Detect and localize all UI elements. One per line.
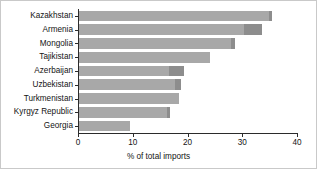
bar-row [78, 78, 297, 92]
bar-row [78, 9, 297, 23]
bar [78, 11, 272, 22]
category-label: Kazakhstan [30, 9, 73, 23]
x-axis-title: % of total imports [0, 152, 317, 161]
x-axis-tick [78, 134, 79, 137]
bar-segment-highlight [231, 38, 235, 49]
bar [78, 93, 179, 104]
bar [78, 52, 210, 63]
x-axis-tick [242, 134, 243, 137]
category-label: Turkmenistan [24, 92, 73, 106]
bar [78, 107, 170, 118]
y-axis-tick [75, 16, 78, 17]
category-label: Tajikistan [39, 50, 73, 64]
bar-segment-highlight [167, 107, 170, 118]
y-axis-line [78, 9, 79, 134]
bar [78, 66, 184, 77]
category-label: Armenia [43, 23, 74, 37]
y-axis-tick [75, 112, 78, 113]
bar-segment-highlight [244, 24, 262, 35]
x-axis-tick [133, 134, 134, 137]
bar-row [78, 23, 297, 37]
bar-row [78, 119, 297, 133]
category-label: Uzbekistan [32, 78, 73, 92]
x-axis-tick [297, 134, 298, 137]
category-label: Georgia [44, 119, 73, 133]
y-axis-tick [75, 43, 78, 44]
y-axis-tick [75, 85, 78, 86]
bar-row [78, 64, 297, 78]
bar-segment-highlight [269, 11, 272, 22]
x-axis-tick [188, 134, 189, 137]
bar [78, 24, 262, 35]
y-axis-tick [75, 57, 78, 58]
x-axis-tick-label: 40 [285, 138, 309, 148]
bar-segment-highlight [169, 66, 184, 77]
plot-area [78, 9, 297, 133]
x-axis-tick-label: 30 [230, 138, 254, 148]
y-axis-tick [75, 126, 78, 127]
y-axis-tick [75, 99, 78, 100]
bar [78, 79, 181, 90]
bar-row [78, 37, 297, 51]
category-label: Kyrgyz Republic [14, 105, 73, 119]
x-axis-tick-label: 10 [121, 138, 145, 148]
bar-row [78, 105, 297, 119]
category-label: Mongolia [40, 37, 73, 51]
x-axis-tick-label: 20 [176, 138, 200, 148]
bar-row [78, 92, 297, 106]
category-label: Azerbaijan [34, 64, 73, 78]
y-axis-tick [75, 30, 78, 31]
bar-row [78, 50, 297, 64]
x-axis-tick-label: 0 [66, 138, 90, 148]
bar-segment-highlight [175, 79, 180, 90]
y-axis-tick [75, 71, 78, 72]
bar [78, 38, 235, 49]
bar-chart: % of total imports KazakhstanArmeniaMong… [0, 0, 317, 169]
bar [78, 121, 130, 132]
